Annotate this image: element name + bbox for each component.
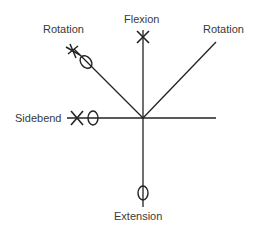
- sidebend-label: Sidebend: [15, 112, 62, 124]
- rotation-right-label: Rotation: [203, 23, 244, 35]
- flexion-label: Flexion: [124, 13, 159, 25]
- rotation-star-marker: [66, 44, 80, 58]
- right-rotation-axis: [143, 42, 216, 118]
- rotation-left-label: Rotation: [43, 23, 84, 35]
- extension-label: Extension: [114, 210, 162, 222]
- left-rotation-axis: [74, 49, 143, 118]
- movement-diagram: Flexion Rotation Rotation Sidebend Exten…: [0, 0, 254, 230]
